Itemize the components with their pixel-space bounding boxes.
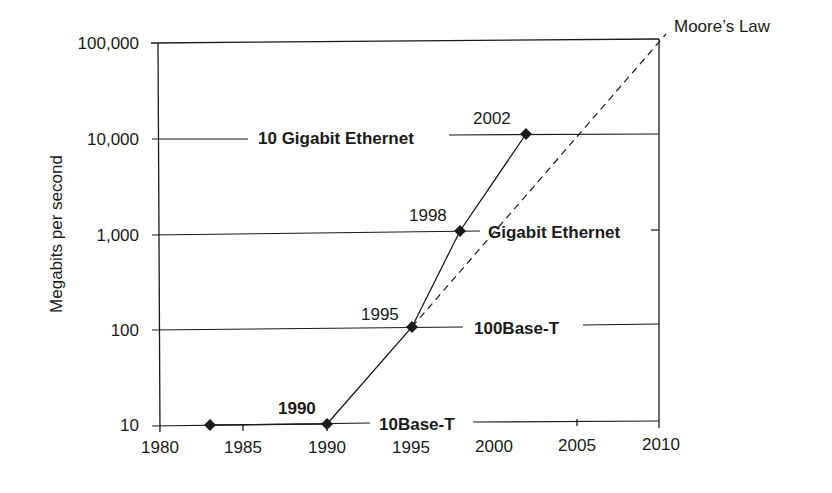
- gridlines: [152, 134, 659, 426]
- y-tick-10000: 10,000: [87, 130, 139, 149]
- y-tick-labels: 100,000 10,000 1,000 100 10: [78, 34, 139, 435]
- x-tick-1990: 1990: [308, 438, 346, 457]
- y-tick-100000: 100,000: [78, 34, 139, 53]
- label-gigabit-ethernet: Gigabit Ethernet: [488, 223, 621, 242]
- moores-law-label: Moore’s Law: [674, 17, 771, 36]
- marker-1983: [204, 419, 216, 431]
- ethernet-series-line: [210, 134, 526, 425]
- x-tick-2000: 2000: [475, 437, 513, 456]
- gridline-100000: [151, 39, 659, 43]
- y-tick-10: 10: [120, 416, 139, 435]
- data-markers: [204, 128, 532, 431]
- label-100base-t: 100Base-T: [474, 319, 560, 338]
- y-axis-title: Megabits per second: [47, 155, 66, 313]
- y-axis-line: [158, 43, 160, 432]
- year-label-1998: 1998: [409, 206, 447, 225]
- label-10-gigabit-ethernet: 10 Gigabit Ethernet: [258, 129, 414, 148]
- marker-2002: [520, 128, 532, 140]
- x-tick-1985: 1985: [224, 438, 262, 457]
- y-tick-100: 100: [111, 321, 139, 340]
- x-tick-2005: 2005: [558, 436, 596, 455]
- year-label-2002: 2002: [473, 109, 511, 128]
- moores-law-line: [412, 34, 666, 327]
- marker-1998: [454, 225, 466, 237]
- ethernet-speed-chart: Megabits per second 100,000 10,000 1,000…: [0, 0, 832, 493]
- year-label-1990: 1990: [278, 399, 316, 418]
- y-tick-1000: 1,000: [96, 226, 139, 245]
- x-tick-1980: 1980: [141, 438, 179, 457]
- x-tick-labels: 1980 1985 1990 1995 2000 2005 2010: [141, 435, 680, 457]
- x-tick-2010: 2010: [642, 435, 680, 454]
- x-tick-1995: 1995: [392, 438, 430, 457]
- year-label-1995: 1995: [361, 305, 399, 324]
- label-10base-t: 10Base-T: [379, 415, 455, 434]
